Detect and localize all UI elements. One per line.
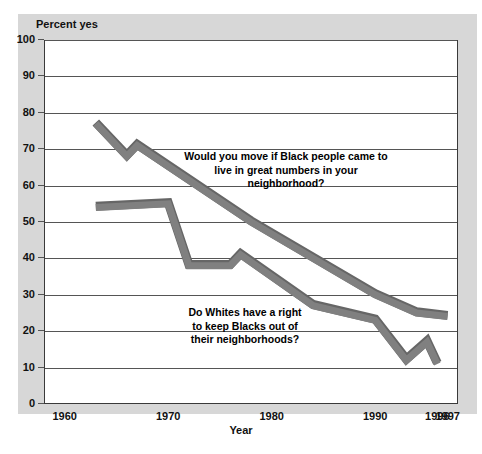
- y-tick-mark: [38, 294, 44, 295]
- y-tick-label: 40: [23, 251, 35, 263]
- y-tick-mark: [38, 330, 44, 331]
- x-tick-label: 1997: [435, 410, 459, 422]
- y-tick-label: 90: [23, 69, 35, 81]
- y-tick-mark: [38, 367, 44, 368]
- y-tick-label: 60: [23, 179, 35, 191]
- x-axis-title: Year: [0, 424, 482, 436]
- y-tick-mark: [38, 221, 44, 222]
- y-tick-label: 100: [17, 33, 35, 45]
- chart-root: Percent yes 1009080706050403020100 19601…: [0, 0, 482, 454]
- y-tick-mark: [38, 112, 44, 113]
- y-tick-mark: [38, 75, 44, 76]
- y-tick-label: 10: [23, 361, 35, 373]
- gridline: [45, 368, 457, 369]
- annotation-rights-question: Do Whites have a right to keep Blacks ou…: [140, 306, 350, 347]
- gridline: [45, 113, 457, 114]
- x-tick-label: 1980: [259, 410, 283, 422]
- y-axis-title: Percent yes: [36, 18, 98, 30]
- y-tick-label: 0: [29, 397, 35, 409]
- y-tick-label: 50: [23, 215, 35, 227]
- gridline: [45, 222, 457, 223]
- plot-area: [44, 40, 458, 404]
- gridline: [45, 40, 457, 41]
- y-tick-label: 30: [23, 288, 35, 300]
- gridline: [45, 258, 457, 259]
- y-tick-label: 80: [23, 106, 35, 118]
- x-tick-label: 1990: [363, 410, 387, 422]
- y-tick-label: 20: [23, 324, 35, 336]
- x-tick-label: 1960: [52, 410, 76, 422]
- annotation-move-question: Would you move if Black people came to l…: [152, 150, 420, 191]
- y-tick-mark: [38, 148, 44, 149]
- y-tick-label: 70: [23, 142, 35, 154]
- y-tick-mark: [38, 403, 44, 404]
- x-tick-label: 1970: [156, 410, 180, 422]
- gridline: [45, 295, 457, 296]
- y-tick-mark: [38, 185, 44, 186]
- y-tick-mark: [38, 257, 44, 258]
- gridline: [45, 76, 457, 77]
- y-tick-mark: [38, 39, 44, 40]
